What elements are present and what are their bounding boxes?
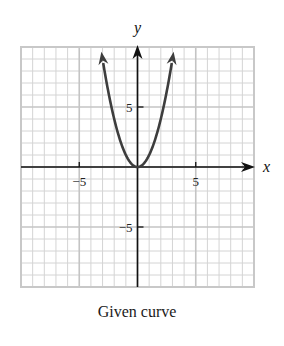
x-axis-label: x: [262, 158, 270, 175]
chart-figure: −555−5 x y Given curve: [0, 0, 284, 346]
coordinate-plane: −555−5 x y: [0, 0, 284, 346]
y-tick-label: 5: [126, 100, 133, 115]
figure-caption: Given curve: [0, 303, 274, 321]
y-tick-label: −5: [119, 220, 133, 235]
x-tick-label: −5: [72, 174, 86, 189]
y-axis-label: y: [132, 19, 142, 37]
x-tick-label: 5: [193, 174, 200, 189]
